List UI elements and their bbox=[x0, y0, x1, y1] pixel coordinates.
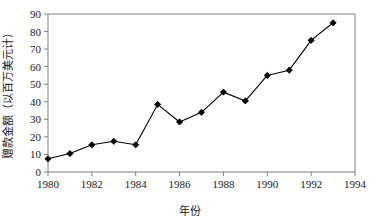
x-tick-label: 1990 bbox=[256, 178, 279, 190]
y-axis-title: 赠款金额（以百万美元计） bbox=[1, 27, 14, 159]
y-tick-label: 0 bbox=[36, 166, 42, 178]
y-tick-label: 70 bbox=[30, 43, 42, 55]
x-tick-label: 1992 bbox=[300, 178, 322, 190]
y-tick-label: 30 bbox=[30, 113, 42, 125]
x-tick-label: 1980 bbox=[37, 178, 60, 190]
x-tick-label: 1986 bbox=[169, 178, 192, 190]
y-tick-label: 40 bbox=[30, 96, 42, 108]
x-tick-label: 1994 bbox=[344, 178, 367, 190]
y-tick-label: 90 bbox=[30, 8, 42, 20]
line-chart: 0102030405060708090 19801982198419861988… bbox=[0, 0, 380, 222]
x-axis-title: 年份 bbox=[179, 204, 201, 217]
x-tick-label: 1982 bbox=[81, 178, 103, 190]
y-tick-label: 50 bbox=[30, 78, 42, 90]
y-tick-label: 60 bbox=[30, 61, 42, 73]
chart-figure: 0102030405060708090 19801982198419861988… bbox=[0, 0, 380, 222]
y-tick-label: 20 bbox=[30, 131, 42, 143]
x-tick-label: 1984 bbox=[125, 178, 148, 190]
y-tick-label: 80 bbox=[30, 26, 42, 38]
y-tick-label: 10 bbox=[30, 148, 42, 160]
x-tick-label: 1988 bbox=[212, 178, 235, 190]
